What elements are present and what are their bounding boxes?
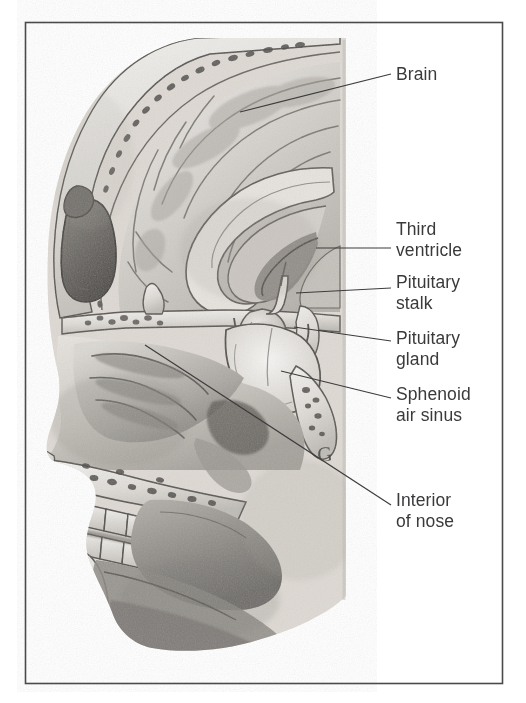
- label-pituitary-gland: Pituitary gland: [396, 328, 460, 369]
- handwritten-mark: G: [316, 442, 334, 467]
- label-third-ventricle: Third ventricle: [396, 219, 462, 260]
- label-sphenoid-air-sinus: Sphenoid air sinus: [396, 384, 471, 425]
- label-pituitary-stalk: Pituitary stalk: [396, 272, 460, 313]
- label-brain: Brain: [396, 64, 437, 85]
- anatomical-figure: G Brain Third ventricle Pituitary stalk …: [0, 0, 526, 703]
- label-interior-of-nose: Interior of nose: [396, 490, 454, 531]
